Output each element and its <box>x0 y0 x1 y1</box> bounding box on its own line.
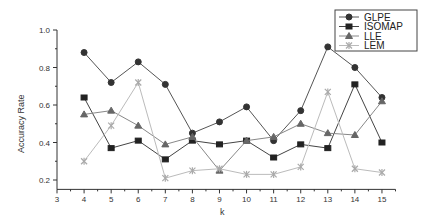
series-isomap <box>81 82 385 162</box>
data-point-star-icon <box>135 79 141 86</box>
x-tick-label: 14 <box>350 195 359 204</box>
series-line <box>84 83 382 179</box>
data-point-triangle-icon <box>135 122 142 128</box>
legend-circle-icon <box>346 14 352 20</box>
data-point-circle-icon <box>162 81 168 87</box>
data-point-circle-icon <box>108 80 114 86</box>
data-point-star-icon <box>298 163 304 170</box>
x-tick-label: 6 <box>136 195 141 204</box>
y-tick-label: 0.2 <box>39 176 51 185</box>
data-point-square-icon <box>298 142 304 147</box>
series-lle <box>81 98 386 173</box>
data-point-square-icon <box>352 82 358 87</box>
data-point-circle-icon <box>135 59 141 65</box>
data-point-circle-icon <box>81 50 87 56</box>
data-point-square-icon <box>135 138 141 143</box>
data-point-star-icon <box>162 175 168 182</box>
data-point-star-icon <box>81 158 87 165</box>
data-point-star-icon <box>325 88 331 95</box>
data-point-circle-icon <box>216 119 222 125</box>
data-point-circle-icon <box>298 108 304 114</box>
x-tick-label: 3 <box>55 195 60 204</box>
y-axis-title: Accuracy Rate <box>16 94 26 153</box>
data-point-square-icon <box>325 146 331 151</box>
data-point-square-icon <box>81 95 87 100</box>
x-tick-label: 5 <box>109 195 114 204</box>
data-point-circle-icon <box>244 104 250 110</box>
data-point-square-icon <box>108 146 114 151</box>
data-point-square-icon <box>216 142 222 147</box>
x-tick-label: 13 <box>323 195 332 204</box>
data-point-circle-icon <box>352 65 358 71</box>
x-tick-label: 15 <box>378 195 387 204</box>
y-tick-label: 1.0 <box>39 26 51 35</box>
data-point-square-icon <box>379 140 385 145</box>
x-tick-label: 9 <box>217 195 222 204</box>
legend-label: LEM <box>364 40 385 51</box>
data-point-circle-icon <box>325 44 331 50</box>
legend-square-icon <box>346 24 352 29</box>
data-point-triangle-icon <box>270 133 277 139</box>
x-tick-label: 10 <box>242 195 251 204</box>
x-tick-label: 12 <box>296 195 305 204</box>
series-line <box>84 101 382 170</box>
y-tick-label: 0.8 <box>39 64 51 73</box>
x-tick-label: 11 <box>269 195 278 204</box>
series-group <box>81 44 386 182</box>
x-tick-label: 4 <box>82 195 87 204</box>
line-chart: 0.20.40.60.81.03456789101112131415kAccur… <box>0 0 431 224</box>
x-tick-label: 7 <box>163 195 168 204</box>
x-axis-title: k <box>220 207 225 217</box>
data-point-square-icon <box>271 155 277 160</box>
series-line <box>84 84 382 159</box>
y-tick-label: 0.6 <box>39 101 51 110</box>
x-tick-label: 8 <box>190 195 195 204</box>
data-point-square-icon <box>162 157 168 162</box>
data-point-star-icon <box>108 122 114 129</box>
series-glpe <box>81 44 385 144</box>
data-point-triangle-icon <box>297 120 304 126</box>
data-point-triangle-icon <box>108 107 115 113</box>
y-tick-label: 0.4 <box>39 139 51 148</box>
series-lem <box>81 79 385 182</box>
legend: GLPEISOMAPLLELEM <box>335 10 417 51</box>
